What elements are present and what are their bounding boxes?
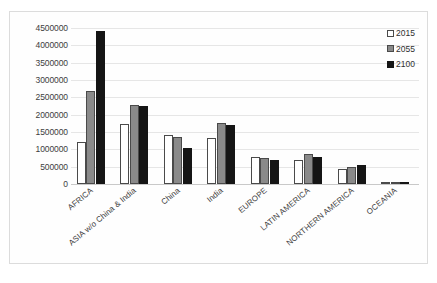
y-axis-tick-label: 4000000: [36, 40, 68, 50]
bar[interactable]: [347, 167, 356, 184]
bar[interactable]: [381, 182, 390, 184]
bar[interactable]: [173, 137, 182, 184]
bar[interactable]: [260, 158, 269, 184]
bars-layer: [71, 28, 419, 184]
bar[interactable]: [217, 123, 226, 184]
legend-item[interactable]: 2055: [387, 45, 415, 54]
y-axis-tick-label: 2000000: [36, 110, 68, 120]
bar[interactable]: [164, 135, 173, 184]
bar[interactable]: [120, 124, 129, 184]
y-axis-tick-label: 3500000: [36, 58, 68, 68]
x-axis-category-label: OCEANIA: [365, 186, 399, 216]
y-axis-tick-label: 4500000: [36, 23, 68, 33]
bar[interactable]: [294, 160, 303, 184]
legend-label: 2055: [396, 45, 415, 54]
bar[interactable]: [183, 148, 192, 184]
bar-group: [332, 28, 376, 184]
bar[interactable]: [96, 31, 105, 184]
bar-group: [71, 28, 115, 184]
axis-baseline: [71, 184, 419, 185]
y-axis-tick-label: 0: [63, 179, 68, 189]
y-axis-tick-label: 1000000: [36, 144, 68, 154]
bar-group: [158, 28, 202, 184]
bar[interactable]: [207, 138, 216, 184]
chart-frame: 4500000400000035000003000000250000020000…: [9, 11, 428, 264]
bar[interactable]: [304, 154, 313, 184]
bar[interactable]: [139, 106, 148, 184]
bar[interactable]: [130, 105, 139, 184]
bar[interactable]: [251, 157, 260, 184]
y-axis-tick-label: 1500000: [36, 127, 68, 137]
bar[interactable]: [338, 169, 347, 184]
bar-group: [115, 28, 159, 184]
bar[interactable]: [270, 160, 279, 184]
white-square-icon: [387, 30, 394, 37]
y-axis-tick-label: 3000000: [36, 75, 68, 85]
legend-item[interactable]: 2015: [387, 29, 415, 38]
bar[interactable]: [313, 157, 322, 184]
bar[interactable]: [391, 182, 400, 184]
bar-group: [289, 28, 333, 184]
bar-group: [245, 28, 289, 184]
legend-label: 2015: [396, 29, 415, 38]
legend-item[interactable]: 2100: [387, 60, 415, 69]
y-axis: 4500000400000035000003000000250000020000…: [19, 28, 68, 184]
bar[interactable]: [226, 125, 235, 184]
chart-legend: 201520552100: [387, 29, 415, 69]
x-axis-category-label: India: [206, 186, 225, 204]
bar[interactable]: [400, 182, 409, 184]
x-axis-category-label: AFRICA: [66, 186, 95, 212]
black-square-icon: [387, 61, 394, 68]
bar[interactable]: [77, 142, 86, 184]
bar[interactable]: [357, 165, 366, 184]
y-axis-tick-label: 500000: [40, 162, 68, 172]
x-axis: AFRICAASIA w/o China & IndiaChinaIndiaEU…: [71, 186, 419, 262]
x-axis-category-label: China: [159, 186, 181, 207]
bar-group: [202, 28, 246, 184]
gray-square-icon: [387, 45, 394, 52]
y-axis-tick-label: 2500000: [36, 92, 68, 102]
x-axis-category-label: EUROPE: [236, 186, 268, 215]
bar[interactable]: [86, 91, 95, 184]
legend-label: 2100: [396, 60, 415, 69]
